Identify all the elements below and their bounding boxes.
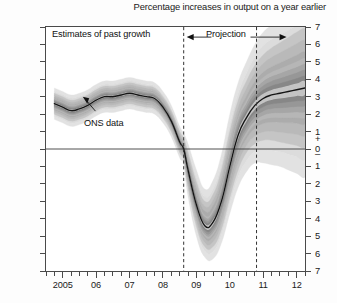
x-tick-mark-minor xyxy=(79,272,80,276)
label-estimates-of-past-growth: Estimates of past growth xyxy=(52,29,150,39)
y-tick-mark-left xyxy=(40,271,45,272)
x-tick-mark-major xyxy=(229,272,230,278)
x-tick-label: 07 xyxy=(114,280,146,290)
x-tick-label: 09 xyxy=(180,280,212,290)
y-tick-label: 7 xyxy=(315,265,335,276)
x-tick-mark-minor xyxy=(154,272,155,276)
x-tick-label: 10 xyxy=(214,280,246,290)
x-tick-mark-major xyxy=(196,272,197,278)
y-tick-mark-left xyxy=(40,44,45,45)
x-tick-mark-major xyxy=(62,272,63,278)
projection-arrow-head-left xyxy=(187,34,194,40)
y-tick-label: 4 xyxy=(315,73,335,84)
fan-chart-svg xyxy=(46,27,305,271)
x-tick-mark-minor xyxy=(305,272,306,276)
y-tick-mark-left xyxy=(40,27,45,28)
y-tick-mark xyxy=(306,166,311,167)
y-tick-label: 1 xyxy=(315,160,335,171)
y-tick-mark-left xyxy=(40,201,45,202)
x-tick-mark-minor xyxy=(137,272,138,276)
y-tick-label: 3 xyxy=(315,195,335,206)
y-tick-label: 7 xyxy=(315,21,335,32)
y-tick-label: 5 xyxy=(315,56,335,67)
y-tick-mark-left xyxy=(40,96,45,97)
x-tick-mark-minor xyxy=(271,272,272,276)
y-tick-mark xyxy=(306,236,311,237)
y-tick-mark xyxy=(306,149,311,150)
x-tick-mark-minor xyxy=(221,272,222,276)
label-projection: Projection xyxy=(206,29,246,39)
y-tick-mark-left xyxy=(40,218,45,219)
y-tick-mark-left xyxy=(40,183,45,184)
x-tick-mark-minor xyxy=(279,272,280,276)
y-tick-mark-left xyxy=(40,131,45,132)
x-tick-mark-major xyxy=(263,272,264,278)
y-tick-mark xyxy=(306,271,311,272)
x-tick-label: 06 xyxy=(80,280,112,290)
x-tick-mark-major xyxy=(296,272,297,278)
x-tick-mark-minor xyxy=(204,272,205,276)
x-tick-mark-minor xyxy=(46,272,47,276)
y-tick-mark-left xyxy=(40,236,45,237)
x-tick-mark-minor xyxy=(213,272,214,276)
y-tick-mark-left xyxy=(40,114,45,115)
x-tick-mark-minor xyxy=(121,272,122,276)
y-tick-label: 2 xyxy=(315,178,335,189)
x-tick-mark-major xyxy=(129,272,130,278)
y-tick-mark-left xyxy=(40,79,45,80)
y-tick-label: 2 xyxy=(315,108,335,119)
page-title: Percentage increases in output on a year… xyxy=(0,1,326,12)
y-tick-mark xyxy=(306,44,311,45)
y-tick-mark-left xyxy=(40,166,45,167)
fan-bands-group xyxy=(54,27,305,261)
y-tick-label: 6 xyxy=(315,248,335,259)
y-tick-mark xyxy=(306,61,311,62)
x-tick-label: 08 xyxy=(147,280,179,290)
x-tick-mark-major xyxy=(162,272,163,278)
y-tick-mark xyxy=(306,79,311,80)
y-tick-mark xyxy=(306,96,311,97)
x-tick-mark-minor xyxy=(87,272,88,276)
x-tick-mark-minor xyxy=(246,272,247,276)
y-axis-negative-sign: – xyxy=(315,151,335,157)
x-tick-mark-minor xyxy=(146,272,147,276)
y-tick-mark xyxy=(306,114,311,115)
x-tick-label: 12 xyxy=(281,280,313,290)
y-tick-label: 5 xyxy=(315,230,335,241)
y-tick-mark xyxy=(306,253,311,254)
y-tick-mark xyxy=(306,183,311,184)
x-tick-label: 2005 xyxy=(47,280,79,290)
y-tick-mark xyxy=(306,218,311,219)
y-tick-mark xyxy=(306,131,311,132)
y-tick-mark-left xyxy=(40,149,45,150)
x-tick-mark-minor xyxy=(104,272,105,276)
y-tick-label: 3 xyxy=(315,91,335,102)
x-tick-label: 11 xyxy=(247,280,279,290)
fan-chart-figure: Percentage increases in output on a year… xyxy=(0,0,337,303)
x-tick-mark-minor xyxy=(238,272,239,276)
x-tick-mark-minor xyxy=(288,272,289,276)
x-tick-mark-minor xyxy=(112,272,113,276)
x-tick-mark-minor xyxy=(171,272,172,276)
x-tick-mark-minor xyxy=(188,272,189,276)
y-tick-label: 6 xyxy=(315,38,335,49)
x-tick-mark-minor xyxy=(254,272,255,276)
y-tick-mark xyxy=(306,201,311,202)
y-tick-mark xyxy=(306,27,311,28)
y-tick-label: 4 xyxy=(315,213,335,224)
y-tick-mark-left xyxy=(40,61,45,62)
x-tick-mark-minor xyxy=(54,272,55,276)
x-tick-mark-major xyxy=(96,272,97,278)
x-tick-mark-minor xyxy=(179,272,180,276)
label-ons-data: ONS data xyxy=(84,118,124,128)
y-tick-mark-left xyxy=(40,253,45,254)
plot-area xyxy=(45,26,306,272)
x-tick-mark-minor xyxy=(71,272,72,276)
y-axis-positive-sign: + xyxy=(315,136,335,142)
